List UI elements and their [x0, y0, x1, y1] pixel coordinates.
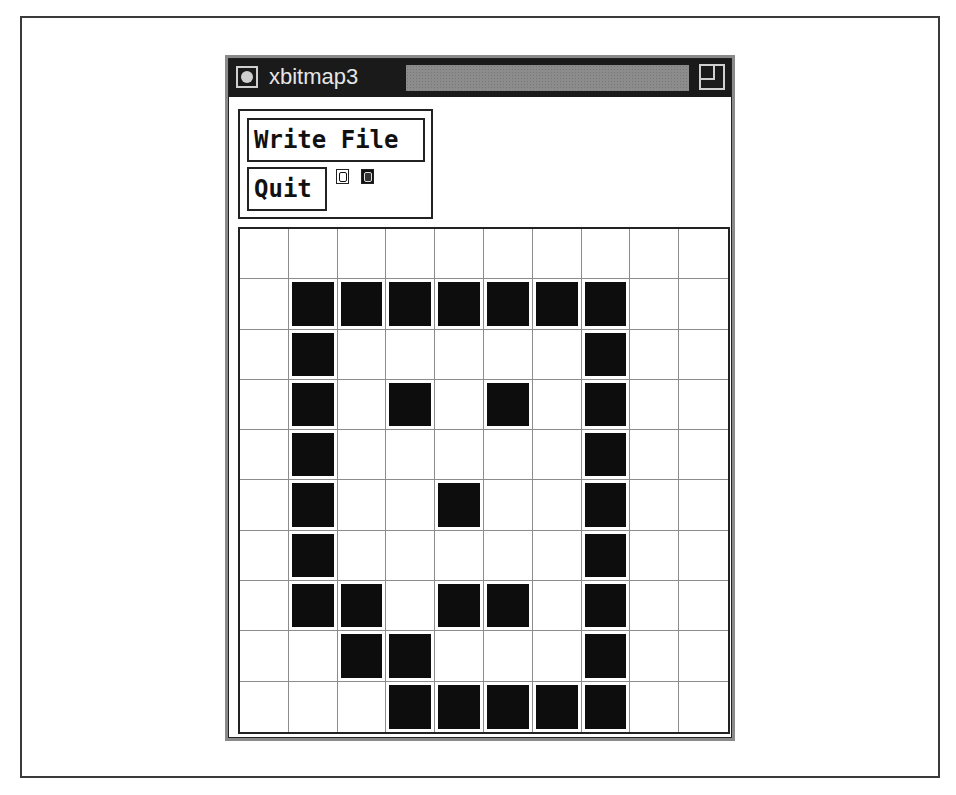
bitmap-cell[interactable]	[386, 380, 435, 430]
bitmap-cell[interactable]	[533, 279, 582, 329]
bitmap-cell[interactable]	[289, 631, 338, 681]
bitmap-cell[interactable]	[386, 480, 435, 530]
bitmap-cell[interactable]	[289, 531, 338, 581]
bitmap-cell[interactable]	[630, 430, 679, 480]
bitmap-cell[interactable]	[533, 430, 582, 480]
bitmap-cell[interactable]	[630, 380, 679, 430]
bitmap-cell[interactable]	[240, 531, 289, 581]
bitmap-cell[interactable]	[484, 279, 533, 329]
bitmap-cell[interactable]	[289, 682, 338, 732]
bitmap-cell[interactable]	[533, 631, 582, 681]
bitmap-cell[interactable]	[533, 330, 582, 380]
bitmap-cell[interactable]	[338, 480, 387, 530]
titlebar[interactable]: xbitmap3	[229, 59, 731, 97]
bitmap-cell[interactable]	[582, 380, 631, 430]
bitmap-cell[interactable]	[386, 631, 435, 681]
bitmap-cell[interactable]	[582, 279, 631, 329]
bitmap-cell[interactable]	[386, 229, 435, 279]
bitmap-cell[interactable]	[679, 380, 728, 430]
bitmap-cell[interactable]	[289, 480, 338, 530]
bitmap-cell[interactable]	[338, 229, 387, 279]
bitmap-cell[interactable]	[484, 531, 533, 581]
bitmap-cell[interactable]	[240, 229, 289, 279]
bitmap-cell[interactable]	[338, 531, 387, 581]
bitmap-cell[interactable]	[582, 330, 631, 380]
bitmap-cell[interactable]	[630, 279, 679, 329]
bitmap-cell[interactable]	[484, 380, 533, 430]
bitmap-cell[interactable]	[240, 279, 289, 329]
bitmap-cell[interactable]	[240, 380, 289, 430]
resize-corner-icon[interactable]	[699, 64, 725, 90]
bitmap-cell[interactable]	[533, 531, 582, 581]
bitmap-cell[interactable]	[386, 531, 435, 581]
bitmap-cell[interactable]	[679, 581, 728, 631]
bitmap-cell[interactable]	[484, 682, 533, 732]
bitmap-cell[interactable]	[582, 531, 631, 581]
bitmap-cell[interactable]	[533, 480, 582, 530]
bitmap-cell[interactable]	[533, 682, 582, 732]
bitmap-cell[interactable]	[435, 682, 484, 732]
bitmap-cell[interactable]	[484, 430, 533, 480]
bitmap-cell[interactable]	[679, 279, 728, 329]
bitmap-cell[interactable]	[386, 682, 435, 732]
bitmap-cell[interactable]	[484, 581, 533, 631]
bitmap-cell[interactable]	[679, 229, 728, 279]
bitmap-cell[interactable]	[240, 682, 289, 732]
bitmap-cell[interactable]	[338, 430, 387, 480]
bitmap-cell[interactable]	[582, 581, 631, 631]
bitmap-cell[interactable]	[338, 330, 387, 380]
bitmap-cell[interactable]	[484, 330, 533, 380]
bitmap-cell[interactable]	[435, 330, 484, 380]
bitmap-cell[interactable]	[240, 581, 289, 631]
bitmap-cell[interactable]	[582, 682, 631, 732]
bitmap-cell[interactable]	[240, 480, 289, 530]
bitmap-cell[interactable]	[630, 581, 679, 631]
bitmap-cell[interactable]	[630, 682, 679, 732]
bitmap-cell[interactable]	[630, 229, 679, 279]
bitmap-cell[interactable]	[338, 380, 387, 430]
bitmap-cell[interactable]	[338, 279, 387, 329]
bitmap-cell[interactable]	[484, 229, 533, 279]
bitmap-cell[interactable]	[435, 581, 484, 631]
bitmap-cell[interactable]	[435, 279, 484, 329]
bitmap-cell[interactable]	[289, 581, 338, 631]
bitmap-cell[interactable]	[435, 380, 484, 430]
bitmap-cell[interactable]	[679, 531, 728, 581]
bitmap-cell[interactable]	[679, 430, 728, 480]
bitmap-cell[interactable]	[289, 279, 338, 329]
bitmap-cell[interactable]	[289, 330, 338, 380]
bitmap-cell[interactable]	[630, 330, 679, 380]
write-file-button[interactable]: Write File	[247, 118, 425, 162]
bitmap-cell[interactable]	[338, 581, 387, 631]
bitmap-cell[interactable]	[679, 330, 728, 380]
bitmap-cell[interactable]	[679, 480, 728, 530]
bitmap-cell[interactable]	[533, 581, 582, 631]
bitmap-cell[interactable]	[484, 480, 533, 530]
bitmap-cell[interactable]	[435, 430, 484, 480]
bitmap-cell[interactable]	[386, 430, 435, 480]
bitmap-cell[interactable]	[435, 631, 484, 681]
bitmap-cell[interactable]	[289, 229, 338, 279]
bitmap-cell[interactable]	[240, 330, 289, 380]
bitmap-cell[interactable]	[338, 631, 387, 681]
bitmap-cell[interactable]	[582, 631, 631, 681]
bitmap-cell[interactable]	[533, 229, 582, 279]
bitmap-cell[interactable]	[435, 531, 484, 581]
quit-button[interactable]: Quit	[247, 167, 327, 211]
bitmap-cell[interactable]	[435, 229, 484, 279]
titlebar-drag-area[interactable]	[406, 65, 689, 91]
bitmap-cell[interactable]	[533, 380, 582, 430]
window-menu-circle-icon[interactable]	[236, 66, 258, 88]
bitmap-cell[interactable]	[679, 682, 728, 732]
bitmap-editor-grid[interactable]	[238, 227, 730, 734]
bitmap-cell[interactable]	[679, 631, 728, 681]
bitmap-cell[interactable]	[582, 430, 631, 480]
bitmap-cell[interactable]	[240, 430, 289, 480]
bitmap-cell[interactable]	[386, 279, 435, 329]
bitmap-cell[interactable]	[582, 480, 631, 530]
bitmap-cell[interactable]	[289, 380, 338, 430]
bitmap-cell[interactable]	[240, 631, 289, 681]
bitmap-cell[interactable]	[582, 229, 631, 279]
bitmap-cell[interactable]	[386, 581, 435, 631]
bitmap-cell[interactable]	[386, 330, 435, 380]
